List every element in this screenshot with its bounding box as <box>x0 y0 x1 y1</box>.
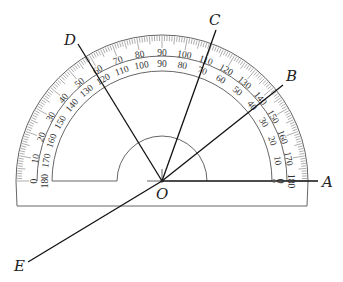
degree-tick <box>71 68 74 72</box>
degree-tick <box>293 129 298 131</box>
degree-tick <box>217 48 219 53</box>
inner-scale-number: 90 <box>157 59 167 69</box>
degree-tick <box>124 41 126 49</box>
degree-tick <box>149 37 150 45</box>
degree-tick <box>59 78 65 84</box>
degree-tick <box>295 136 300 138</box>
degree-tick <box>196 40 197 45</box>
degree-tick <box>238 59 241 63</box>
degree-tick <box>219 49 221 54</box>
point-label-c: C <box>209 11 221 29</box>
degree-tick <box>139 38 140 43</box>
degree-tick <box>20 153 25 154</box>
degree-tick <box>297 141 302 142</box>
degree-tick <box>22 143 30 145</box>
protractor-diagram: 0102030405060708090100110120130140150160… <box>0 0 343 282</box>
inner-scale-number: 100 <box>134 59 150 71</box>
degree-tick <box>94 53 96 57</box>
degree-tick <box>24 136 29 138</box>
degree-tick <box>244 64 247 68</box>
degree-tick <box>278 100 282 103</box>
point-label-b: B <box>285 67 297 85</box>
degree-tick <box>103 49 105 54</box>
degree-tick <box>83 59 86 63</box>
degree-tick <box>19 158 24 159</box>
outer-scale-number: 170 <box>282 151 294 167</box>
degree-tick <box>127 40 128 45</box>
degree-tick <box>223 51 225 55</box>
degree-tick <box>54 84 58 87</box>
degree-tick <box>48 92 52 95</box>
degree-tick <box>214 47 216 52</box>
degree-tick <box>201 42 202 47</box>
degree-tick <box>240 61 243 65</box>
degree-tick <box>230 54 232 58</box>
degree-tick <box>18 168 26 169</box>
degree-tick <box>45 96 49 99</box>
degree-tick <box>20 151 25 152</box>
degree-tick <box>36 109 46 115</box>
degree-tick <box>21 148 26 149</box>
point-label-o: O <box>156 185 168 203</box>
inner-scale-number: 20 <box>266 135 279 148</box>
degree-tick <box>18 161 23 162</box>
degree-tick <box>205 43 207 48</box>
degree-tick <box>174 37 175 45</box>
degree-tick <box>298 168 306 169</box>
degree-tick <box>185 38 187 50</box>
degree-tick <box>294 134 299 136</box>
degree-tick <box>259 78 265 84</box>
degree-tick <box>286 113 290 115</box>
degree-tick <box>296 139 301 140</box>
degree-tick <box>203 42 204 47</box>
degree-tick <box>56 82 60 85</box>
degree-tick <box>184 38 185 43</box>
degree-tick <box>248 67 251 71</box>
degree-tick <box>197 41 199 49</box>
degree-tick <box>18 163 23 164</box>
degree-tick <box>286 120 293 123</box>
degree-tick <box>301 163 306 164</box>
degree-tick <box>275 96 279 99</box>
degree-tick <box>92 54 94 58</box>
point-label-e: E <box>13 257 25 275</box>
outer-scale-number: 90 <box>157 48 167 58</box>
degree-tick <box>298 148 303 149</box>
degree-tick <box>46 94 50 97</box>
degree-tick <box>250 68 253 72</box>
degree-tick <box>144 37 145 42</box>
degree-tick <box>35 111 39 113</box>
degree-tick <box>38 106 42 109</box>
outer-scale-number: 0 <box>29 178 39 183</box>
degree-tick <box>177 37 178 42</box>
degree-tick <box>266 84 270 87</box>
degree-tick <box>142 37 143 42</box>
degree-tick <box>58 80 62 83</box>
degree-tick <box>117 43 119 48</box>
degree-tick <box>181 37 182 42</box>
degree-tick <box>179 37 180 42</box>
outer-scale-number: 10 <box>30 153 42 164</box>
degree-tick <box>137 38 139 50</box>
inner-scale-number: 70 <box>196 64 209 77</box>
degree-tick <box>288 117 292 119</box>
degree-tick <box>193 40 194 45</box>
outer-scale-number: 80 <box>134 49 145 61</box>
vertex-o-dot <box>160 179 163 182</box>
degree-tick <box>236 58 239 62</box>
degree-tick <box>31 120 38 123</box>
degree-tick <box>67 72 70 76</box>
degree-tick <box>18 166 23 167</box>
degree-tick <box>53 86 57 89</box>
degree-tick <box>293 156 305 158</box>
degree-tick <box>277 109 287 115</box>
degree-tick <box>33 115 37 117</box>
degree-tick <box>61 77 64 81</box>
degree-tick <box>292 127 297 129</box>
degree-tick <box>25 134 30 136</box>
degree-tick <box>290 122 295 124</box>
degree-tick <box>247 70 255 79</box>
degree-tick <box>298 146 303 147</box>
degree-tick <box>30 122 35 124</box>
degree-tick <box>110 46 112 51</box>
